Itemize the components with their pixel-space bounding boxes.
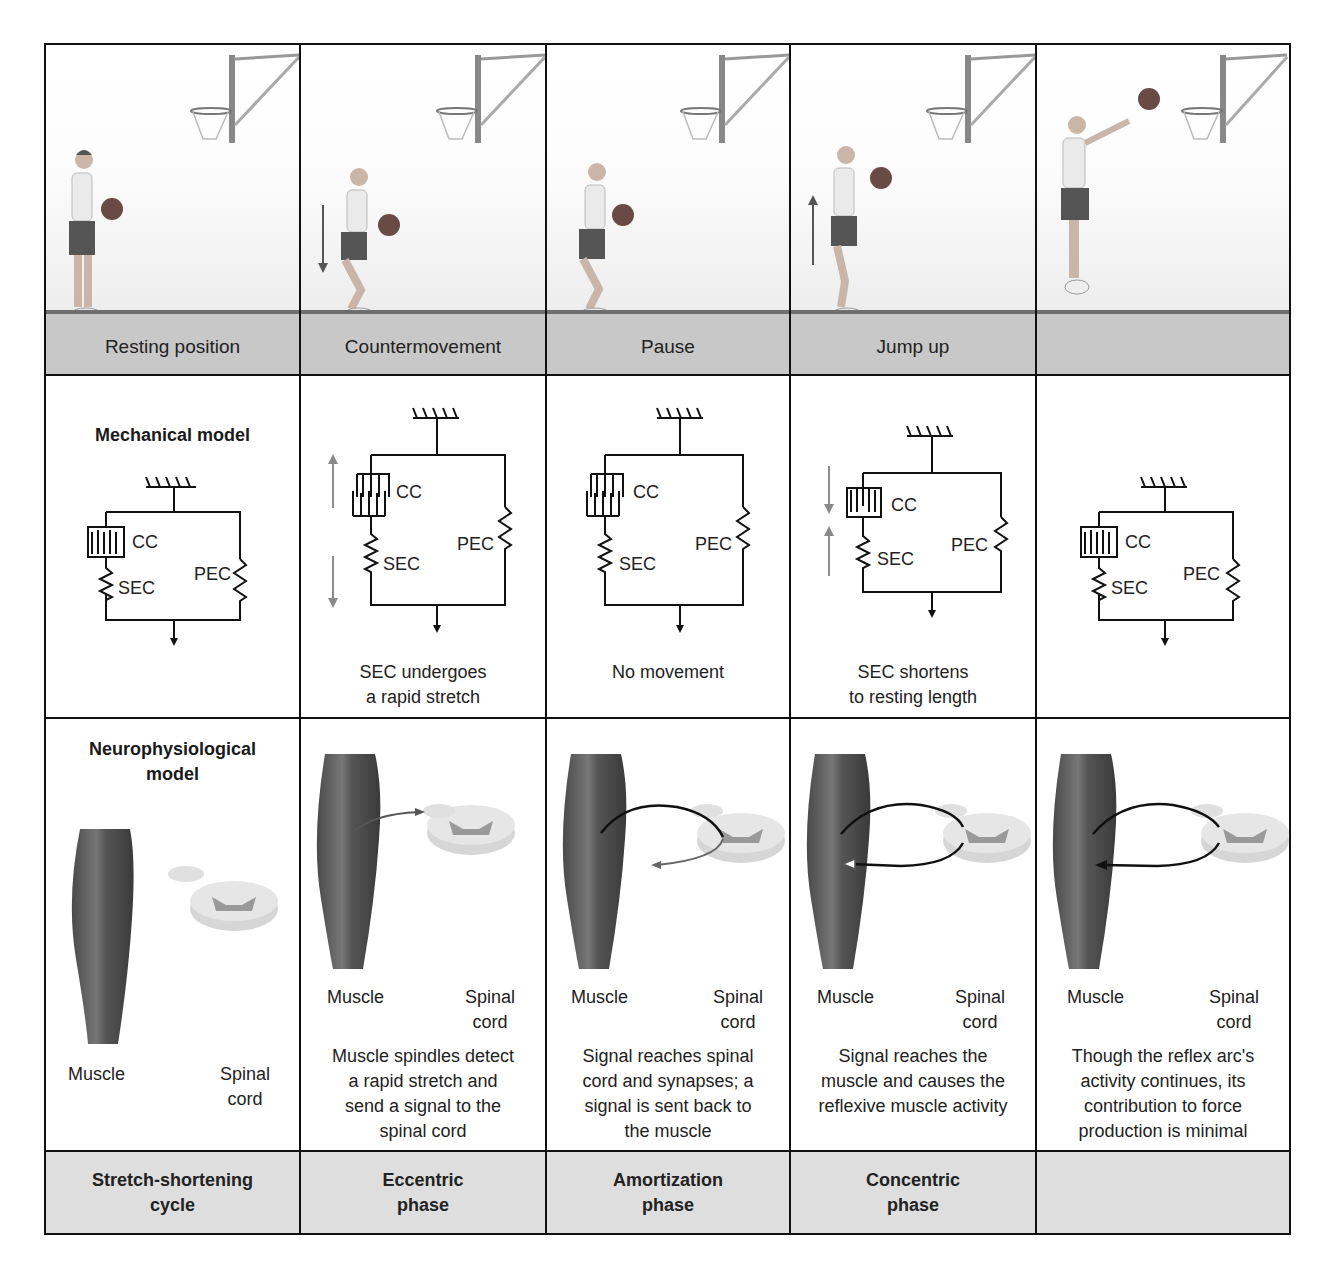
sec-label: SEC (619, 552, 656, 577)
spinal-cord-label: Spinalcord (713, 985, 763, 1035)
arrow-down-icon (433, 625, 441, 633)
neuro-caption: Muscle spindles detecta rapid stretch an… (301, 1044, 545, 1144)
neuro-model-pause: Muscle Spinalcord Signal reaches spinalc… (547, 719, 791, 1152)
arrow-down-icon (1161, 638, 1169, 646)
phase-label: Concentricphase (791, 1168, 1035, 1218)
stage-panel-resting: Resting position (46, 45, 301, 376)
spinal-cord-icon (1191, 804, 1289, 863)
sec-label: SEC (118, 576, 155, 601)
neuro-model-resting: Neurophysiological model Muscle Spinalco… (46, 719, 301, 1152)
stage-label: Pause (547, 336, 789, 358)
cc-label: CC (132, 530, 158, 555)
phase-cell-concentric: Concentricphase (791, 1152, 1037, 1233)
phase-cell-ssc: Stretch-shorteningcycle (46, 1152, 301, 1233)
pec-label: PEC (1183, 562, 1220, 587)
mechanical-model-release: CC SEC PEC (1037, 376, 1289, 719)
hoop-icon (927, 55, 1035, 143)
cc-label: CC (633, 480, 659, 505)
hoop-icon (191, 55, 299, 143)
player-icon (69, 150, 123, 318)
neuro-model-release: Muscle Spinalcord Though the reflex arc'… (1037, 719, 1289, 1152)
mechanical-model-countermovement: CC SEC PEC SEC undergoes a rapid stretch (301, 376, 547, 719)
stage-panel-pause: Pause (547, 45, 791, 376)
ball-icon (1138, 88, 1160, 110)
stage-panel-jump-up: Jump up (791, 45, 1037, 376)
muscle-icon (72, 829, 134, 1044)
phase-label: Eccentricphase (301, 1168, 545, 1218)
spinal-cord-icon (168, 866, 278, 931)
muscle-label: Muscle (68, 1062, 125, 1087)
arrow-down-icon (928, 610, 936, 618)
muscle-label: Muscle (1067, 985, 1124, 1010)
muscle-icon (563, 754, 627, 969)
spinal-cord-label: Spinalcord (955, 985, 1005, 1035)
mechanical-model-diagram (1037, 376, 1289, 719)
muscle-icon (317, 754, 381, 969)
hoop-icon (1182, 55, 1287, 143)
hoop-icon (681, 55, 789, 143)
sec-label: SEC (1111, 576, 1148, 601)
spinal-cord-label: Spinalcord (220, 1062, 270, 1112)
mechanical-model-pause: CC SEC PEC No movement (547, 376, 791, 719)
muscle-label: Muscle (571, 985, 628, 1010)
down-arrow-icon (318, 205, 328, 273)
neuro-caption: Signal reaches themuscle and causes ther… (791, 1044, 1035, 1119)
player-icon (831, 146, 892, 318)
phase-cell-empty (1037, 1152, 1289, 1233)
phase-label: Amortizationphase (547, 1168, 789, 1218)
spinal-cord-label: Spinalcord (1209, 985, 1259, 1035)
pec-label: PEC (457, 532, 494, 557)
mechanical-caption: SEC undergoes a rapid stretch (301, 660, 545, 710)
player-icon (579, 163, 634, 318)
muscle-label: Muscle (817, 985, 874, 1010)
stage-panel-release (1037, 45, 1289, 376)
neuro-caption: Signal reaches spinalcord and synapses; … (547, 1044, 789, 1144)
neuro-model-countermovement: Muscle Spinalcord Muscle spindles detect… (301, 719, 547, 1152)
phase-cell-amortization: Amortizationphase (547, 1152, 791, 1233)
ground-icon (413, 408, 459, 418)
up-arrow-icon (808, 195, 818, 265)
stretch-shortening-cycle-figure: Resting position Countermovement Pause J… (44, 43, 1291, 1235)
ground-icon (1141, 477, 1187, 487)
spinal-cord-label: Spinalcord (465, 985, 515, 1035)
sec-label: SEC (383, 552, 420, 577)
muscle-label: Muscle (327, 985, 384, 1010)
mechanical-caption: No movement (547, 660, 789, 685)
phase-cell-eccentric: Eccentricphase (301, 1152, 547, 1233)
stage-label: Jump up (791, 336, 1035, 358)
phase-label: Stretch-shorteningcycle (46, 1168, 299, 1218)
cc-label: CC (396, 480, 422, 505)
arrow-down-icon (170, 638, 178, 646)
mechanical-model-resting: Mechanical model CC SEC PEC (46, 376, 301, 719)
player-icon (341, 168, 400, 318)
mechanical-caption: SEC shortens to resting length (791, 660, 1035, 710)
stage-label: Resting position (46, 336, 299, 358)
player-icon (1061, 116, 1129, 294)
neuro-caption: Though the reflex arc'sactivity continue… (1037, 1044, 1289, 1144)
arrow-down-icon (676, 625, 684, 633)
sec-label: SEC (877, 547, 914, 572)
hoop-icon (437, 55, 545, 143)
stage-label: Countermovement (301, 336, 545, 358)
ground-icon (907, 426, 953, 436)
mechanical-model-diagram (46, 376, 301, 719)
spinal-cord-icon (423, 804, 515, 855)
muscle-icon (807, 754, 871, 969)
pec-label: PEC (194, 562, 231, 587)
cc-label: CC (891, 493, 917, 518)
mechanical-model-jump-up: CC SEC PEC SEC shortens to resting lengt… (791, 376, 1037, 719)
pec-label: PEC (951, 533, 988, 558)
ground-icon (657, 408, 703, 418)
stage-panel-countermovement: Countermovement (301, 45, 547, 376)
neuro-model-jump-up: Muscle Spinalcord Signal reaches themusc… (791, 719, 1037, 1152)
pec-label: PEC (695, 532, 732, 557)
cc-label: CC (1125, 530, 1151, 555)
ground-icon (146, 477, 196, 487)
